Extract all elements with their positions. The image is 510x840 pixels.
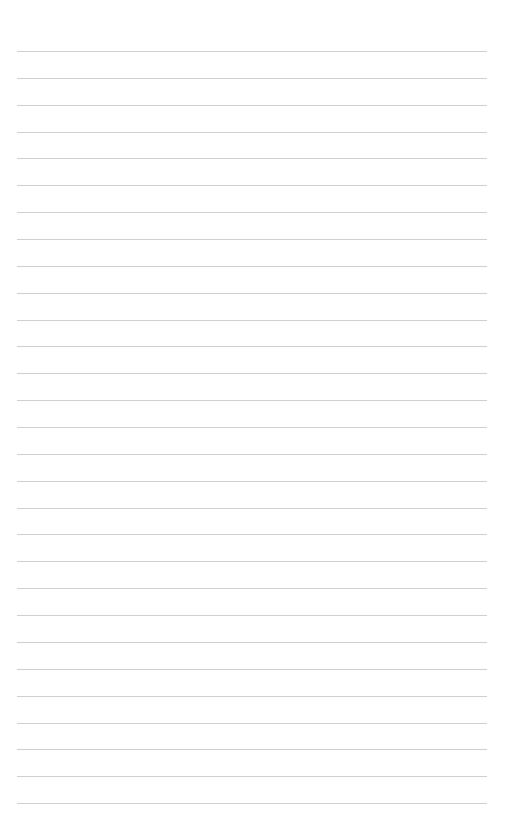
ruled-line	[17, 320, 487, 321]
ruled-line	[17, 239, 487, 240]
ruled-line	[17, 293, 487, 294]
ruled-line	[17, 51, 487, 52]
ruled-line	[17, 105, 487, 106]
ruled-line	[17, 588, 487, 589]
ruled-line	[17, 561, 487, 562]
ruled-line	[17, 723, 487, 724]
ruled-line	[17, 185, 487, 186]
ruled-line	[17, 400, 487, 401]
ruled-line	[17, 158, 487, 159]
ruled-line	[17, 427, 487, 428]
ruled-line	[17, 749, 487, 750]
ruled-line	[17, 669, 487, 670]
ruled-line	[17, 373, 487, 374]
ruled-line	[17, 132, 487, 133]
ruled-line	[17, 776, 487, 777]
ruled-line	[17, 78, 487, 79]
lined-paper-page	[0, 0, 510, 840]
ruled-line	[17, 615, 487, 616]
ruled-line	[17, 803, 487, 804]
ruled-line	[17, 212, 487, 213]
ruled-line	[17, 534, 487, 535]
ruled-line	[17, 481, 487, 482]
ruled-line	[17, 642, 487, 643]
ruled-line	[17, 696, 487, 697]
ruled-line	[17, 508, 487, 509]
ruled-line	[17, 454, 487, 455]
ruled-line	[17, 266, 487, 267]
ruled-line	[17, 346, 487, 347]
